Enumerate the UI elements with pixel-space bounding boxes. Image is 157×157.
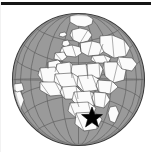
globe-figure: World globe locator map Orthographic pro… [0, 0, 157, 157]
globe-svg [0, 0, 157, 157]
globe-container [0, 0, 157, 157]
